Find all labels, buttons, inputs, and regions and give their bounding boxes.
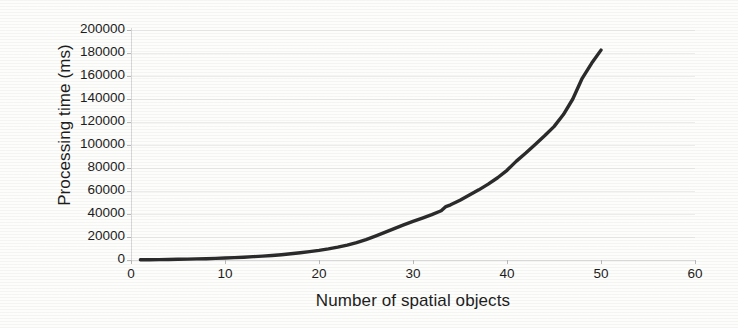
y-tick-label: 40000 <box>59 205 125 220</box>
x-tick-mark <box>225 260 226 264</box>
y-tick-label: 140000 <box>59 90 125 105</box>
x-tick-label: 50 <box>581 266 621 281</box>
y-tick-label: 0 <box>59 251 125 266</box>
data-series-line <box>131 28 695 262</box>
y-tick-label: 20000 <box>59 228 125 243</box>
x-tick-label: 60 <box>675 266 715 281</box>
x-tick-mark <box>319 260 320 264</box>
y-tick-label: 160000 <box>59 67 125 82</box>
y-tick-label: 100000 <box>59 136 125 151</box>
y-tick-label: 80000 <box>59 159 125 174</box>
x-tick-label: 30 <box>393 266 433 281</box>
chart-figure: Processing time (ms) 0200004000060000800… <box>0 0 738 328</box>
x-tick-mark <box>695 260 696 264</box>
x-tick-label: 0 <box>111 266 151 281</box>
x-tick-label: 10 <box>205 266 245 281</box>
y-tick-label: 60000 <box>59 182 125 197</box>
y-tick-label: 120000 <box>59 113 125 128</box>
y-tick-label: 180000 <box>59 44 125 59</box>
x-tick-mark <box>507 260 508 264</box>
x-tick-label: 40 <box>487 266 527 281</box>
x-axis-title: Number of spatial objects <box>131 291 695 311</box>
x-tick-label: 20 <box>299 266 339 281</box>
y-tick-label: 200000 <box>59 21 125 36</box>
x-tick-mark <box>601 260 602 264</box>
x-tick-mark <box>413 260 414 264</box>
plot-area <box>131 28 695 262</box>
x-tick-mark <box>131 260 132 264</box>
